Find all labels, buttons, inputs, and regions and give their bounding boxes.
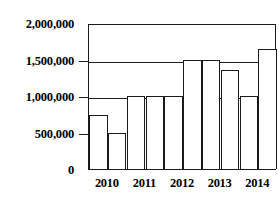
y-axis-tick-500000 bbox=[79, 134, 88, 135]
bar-chart: 2,000,000 1,500,000 1,000,000 500,000 0 … bbox=[0, 0, 279, 204]
bar-2013-2 bbox=[221, 70, 239, 169]
bar-2012-2 bbox=[183, 60, 201, 170]
y-axis-tick-1000000 bbox=[79, 97, 88, 98]
y-axis-tick-1500000 bbox=[79, 61, 88, 62]
bar-2014-1 bbox=[240, 96, 258, 169]
bar-series bbox=[89, 25, 275, 169]
y-axis-tick-label-1500000: 1,500,000 bbox=[26, 53, 74, 68]
y-axis-tick-label-1000000: 1,000,000 bbox=[26, 90, 74, 105]
x-axis-tick-label-2011: 2011 bbox=[133, 176, 156, 191]
x-axis-labels: 20102011201220132014 bbox=[88, 176, 276, 200]
y-axis-tick-label-0: 0 bbox=[68, 163, 74, 178]
bar-2010-1 bbox=[89, 115, 107, 169]
bar-2010-2 bbox=[108, 133, 126, 170]
bar-2011-2 bbox=[146, 96, 164, 169]
y-axis-labels: 2,000,000 1,500,000 1,000,000 500,000 0 bbox=[0, 0, 78, 204]
bar-2011-1 bbox=[127, 96, 145, 169]
x-axis-tick-label-2012: 2012 bbox=[170, 176, 194, 191]
bar-2013-1 bbox=[202, 60, 220, 170]
bar-2014-2 bbox=[258, 49, 276, 169]
y-axis-tick-label-500000: 500,000 bbox=[35, 126, 74, 141]
x-axis-tick-label-2014: 2014 bbox=[245, 176, 269, 191]
x-axis-tick-label-2010: 2010 bbox=[95, 176, 119, 191]
y-axis-tick-label-2000000: 2,000,000 bbox=[26, 17, 74, 32]
bar-2012-1 bbox=[164, 96, 182, 169]
plot-area bbox=[88, 24, 276, 170]
x-axis-tick-label-2013: 2013 bbox=[208, 176, 232, 191]
